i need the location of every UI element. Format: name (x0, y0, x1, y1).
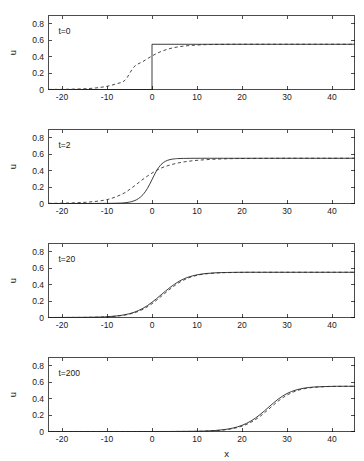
y-tick-label: 0.6 (32, 377, 44, 387)
y-tick-label: 0.4 (32, 394, 44, 404)
x-tick-label: -20 (56, 206, 69, 216)
panel-time-label: t=20 (59, 254, 76, 264)
y-tick-label: 0.8 (32, 247, 44, 257)
x-tick-label: 30 (282, 92, 292, 102)
x-tick-label: -20 (56, 434, 69, 444)
x-tick-label: 40 (327, 320, 337, 330)
y-tick-label: 0.8 (32, 133, 44, 143)
x-tick-label: 10 (192, 92, 202, 102)
y-axis-title: u (7, 50, 18, 55)
x-tick-label: -10 (101, 434, 114, 444)
curve-dashed (49, 158, 355, 203)
curve-solid (49, 44, 355, 89)
x-tick-label: 40 (327, 92, 337, 102)
y-axis-title: u (7, 392, 18, 397)
curve-solid (49, 158, 355, 203)
plot-panel-2: -20-1001020304000.20.40.60.8ut=2 (7, 130, 355, 217)
panel-time-label: t=0 (59, 26, 71, 36)
curve-dashed (49, 386, 355, 431)
x-tick-label: 20 (237, 434, 247, 444)
x-tick-label: 10 (192, 320, 202, 330)
curve-solid (49, 272, 355, 317)
y-tick-label: 0 (39, 313, 44, 323)
x-tick-label: -10 (101, 320, 114, 330)
y-tick-label: 0.4 (32, 52, 44, 62)
figure-container: -20-1001020304000.20.40.60.8ut=0-20-1001… (0, 0, 364, 461)
x-tick-label: -10 (101, 92, 114, 102)
x-tick-label: 30 (282, 206, 292, 216)
y-tick-label: 0 (39, 199, 44, 209)
y-tick-label: 0.2 (32, 68, 44, 78)
panel-time-label: t=200 (59, 368, 81, 378)
plot-panel-200: -20-1001020304000.20.40.60.8ut=200 (7, 358, 355, 445)
plot-box (49, 358, 355, 432)
y-tick-label: 0.2 (32, 182, 44, 192)
multi-panel-plot: -20-1001020304000.20.40.60.8ut=0-20-1001… (0, 0, 364, 461)
x-tick-label: 10 (192, 206, 202, 216)
y-tick-label: 0.6 (32, 149, 44, 159)
curve-dashed (49, 272, 355, 317)
x-tick-label: 10 (192, 434, 202, 444)
x-tick-label: 0 (150, 320, 155, 330)
plot-box (49, 244, 355, 318)
x-tick-label: 30 (282, 320, 292, 330)
y-tick-label: 0.8 (32, 19, 44, 29)
y-tick-label: 0.6 (32, 263, 44, 273)
x-tick-label: 20 (237, 206, 247, 216)
x-axis-title: x (224, 448, 229, 459)
x-tick-label: -20 (56, 320, 69, 330)
plot-panel-0: -20-1001020304000.20.40.60.8ut=0 (7, 16, 355, 103)
y-axis-title: u (7, 278, 18, 283)
x-tick-label: 40 (327, 434, 337, 444)
panel-time-label: t=2 (59, 140, 71, 150)
x-tick-label: 20 (237, 92, 247, 102)
x-tick-label: 30 (282, 434, 292, 444)
y-tick-label: 0 (39, 427, 44, 437)
y-tick-label: 0 (39, 85, 44, 95)
plot-box (49, 130, 355, 204)
y-tick-label: 0.6 (32, 35, 44, 45)
x-tick-label: 0 (150, 434, 155, 444)
x-tick-label: 20 (237, 320, 247, 330)
curve-dashed (49, 44, 355, 89)
y-tick-label: 0.2 (32, 296, 44, 306)
plot-panel-20: -20-1001020304000.20.40.60.8ut=20 (7, 244, 355, 331)
y-tick-label: 0.4 (32, 280, 44, 290)
plot-box (49, 16, 355, 90)
x-tick-label: -20 (56, 92, 69, 102)
x-tick-label: 0 (150, 92, 155, 102)
y-tick-label: 0.8 (32, 361, 44, 371)
y-tick-label: 0.2 (32, 410, 44, 420)
x-tick-label: 40 (327, 206, 337, 216)
curve-solid (49, 386, 355, 431)
y-tick-label: 0.4 (32, 166, 44, 176)
x-tick-label: -10 (101, 206, 114, 216)
y-axis-title: u (7, 164, 18, 169)
x-tick-label: 0 (150, 206, 155, 216)
